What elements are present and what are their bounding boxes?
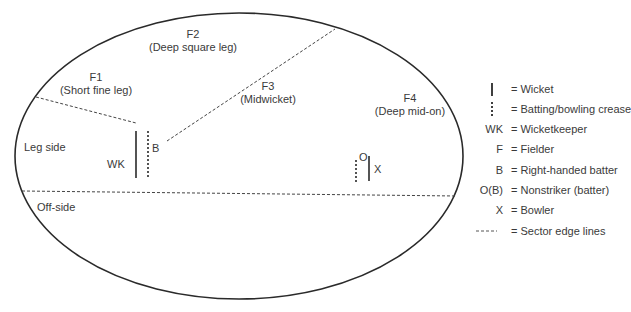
- legend-item-sector-edge: = Sector edge lines: [470, 224, 631, 238]
- legend-symbol: F: [470, 142, 503, 156]
- legend-text: = Wicketkeeper: [511, 122, 587, 136]
- legend-text: = Batting/bowling crease: [511, 102, 631, 116]
- nonstriker-label: O: [359, 151, 368, 164]
- side-divider-line: [22, 191, 456, 196]
- bowler-label: X: [374, 163, 381, 176]
- fielder-f1-id: F1: [46, 71, 146, 84]
- fielder-f3-id: F3: [228, 80, 308, 93]
- fielder-f2: F2 (Deep square leg): [138, 28, 248, 54]
- legend-item-wicketkeeper: WK = Wicketkeeper: [470, 122, 631, 136]
- legend-item-crease: = Batting/bowling crease: [470, 102, 631, 116]
- wicketkeeper-label: WK: [107, 158, 125, 171]
- off-side-label: Off-side: [37, 201, 75, 214]
- legend-item-nonstriker: O(B) = Nonstriker (batter): [470, 183, 631, 197]
- legend-text: = Bowler: [511, 203, 554, 217]
- legend-symbol: X: [470, 203, 503, 217]
- legend-item-bowler: X = Bowler: [470, 203, 631, 217]
- fielder-f4-id: F4: [365, 92, 455, 105]
- field-diagram: [0, 0, 631, 312]
- fielder-f2-id: F2: [138, 28, 248, 41]
- legend-text: = Fielder: [511, 142, 554, 156]
- legend-text: = Sector edge lines: [511, 224, 605, 238]
- fielder-f4-name: (Deep mid-on): [365, 105, 455, 118]
- legend-symbol: WK: [470, 122, 503, 136]
- field-boundary: [15, 13, 463, 299]
- legend-text: = Right-handed batter: [511, 163, 618, 177]
- fielder-f3: F3 (Midwicket): [228, 80, 308, 106]
- fielder-f4: F4 (Deep mid-on): [365, 92, 455, 118]
- fielder-f1-name: (Short fine leg): [46, 84, 146, 97]
- fielder-f3-name: (Midwicket): [228, 93, 308, 106]
- fielder-f1: F1 (Short fine leg): [46, 71, 146, 97]
- legend-symbol: O(B): [470, 183, 503, 197]
- batter-label: B: [152, 142, 159, 155]
- legend-item-batter: B = Right-handed batter: [470, 163, 631, 177]
- legend-text: = Nonstriker (batter): [511, 183, 609, 197]
- sector-edge-line-f1: [36, 97, 136, 123]
- leg-side-label: Leg side: [24, 141, 66, 154]
- legend-symbol: B: [470, 163, 503, 177]
- legend-item-fielder: F = Fielder: [470, 142, 631, 156]
- fielder-f2-name: (Deep square leg): [138, 41, 248, 54]
- legend-text: = Wicket: [511, 82, 553, 96]
- legend-item-wicket: = Wicket: [470, 82, 631, 96]
